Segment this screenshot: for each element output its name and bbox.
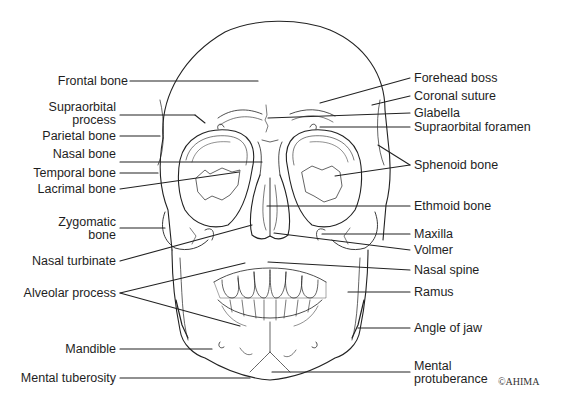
label-zygomatic-bone-line2: bone [88, 229, 116, 242]
label-maxilla: Maxilla [414, 228, 453, 241]
label-nasal-turbinate: Nasal turbinate [32, 255, 116, 268]
label-nasal-bone: Nasal bone [53, 148, 116, 161]
label-supraorbital-process-line2: process [72, 114, 116, 127]
label-coronal-suture: Coronal suture [414, 90, 496, 103]
label-angle-of-jaw: Angle of jaw [414, 322, 482, 335]
lower-teeth [218, 300, 322, 318]
copyright-notice: ©AHIMA [498, 376, 539, 387]
label-mandible: Mandible [65, 343, 116, 356]
leader-lines-right [267, 78, 410, 372]
nasal-bones [258, 142, 282, 175]
label-lacrimal-bone: Lacrimal bone [37, 183, 116, 196]
left-orbit [178, 130, 253, 227]
label-parietal-bone: Parietal bone [42, 130, 116, 143]
label-supraorbital-foramen: Supraorbital foramen [414, 121, 531, 134]
label-temporal-bone: Temporal bone [33, 167, 116, 180]
skull-diagram: Frontal bone Supraorbital process Pariet… [0, 0, 566, 412]
label-sphenoid-bone: Sphenoid bone [414, 159, 498, 172]
label-ramus: Ramus [414, 286, 454, 299]
right-orbit [286, 130, 361, 227]
label-ethmoid-bone: Ethmoid bone [414, 200, 491, 213]
label-mental-protuberance-line2: protuberance [414, 373, 488, 386]
label-mental-tuberosity: Mental tuberosity [21, 372, 116, 385]
label-forehead-boss: Forehead boss [414, 72, 497, 85]
label-nasal-spine: Nasal spine [414, 264, 479, 277]
label-alveolar-process: Alveolar process [24, 287, 116, 300]
label-volmer: Volmer [414, 244, 453, 257]
label-frontal-bone: Frontal bone [58, 75, 128, 88]
label-glabella: Glabella [414, 107, 460, 120]
